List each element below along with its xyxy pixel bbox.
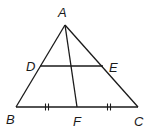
label-d: D (26, 59, 35, 74)
label-a: A (57, 5, 67, 20)
label-e: E (109, 60, 118, 75)
label-f: F (73, 114, 82, 129)
triangle-diagram: A B C D E F (0, 0, 153, 134)
label-b: B (6, 112, 15, 127)
label-c: C (134, 114, 144, 129)
